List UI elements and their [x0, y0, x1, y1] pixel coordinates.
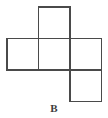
top-square: [39, 7, 71, 39]
cube-net-figure: B: [0, 0, 108, 118]
middle-right-square: [70, 39, 102, 71]
net-diagram-svg: [0, 0, 108, 118]
middle-center-square: [39, 39, 71, 71]
figure-label: B: [0, 102, 108, 115]
middle-left-square: [7, 39, 39, 71]
bottom-square: [70, 70, 102, 102]
